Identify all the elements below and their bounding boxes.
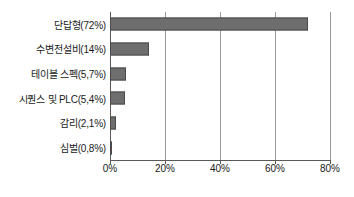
bar-row <box>110 86 330 111</box>
bar-row <box>110 37 330 62</box>
x-tick-label: 80% <box>320 163 340 174</box>
bar <box>110 141 112 154</box>
bar-row <box>110 61 330 86</box>
gridline <box>330 12 331 160</box>
category-label: 심벌(0,8%) <box>0 135 106 160</box>
bar-row <box>110 135 330 160</box>
x-tick-mark <box>220 160 221 164</box>
x-tick-mark <box>110 160 111 164</box>
category-label: 수변전설비(14%) <box>0 37 106 62</box>
bar-row <box>110 12 330 37</box>
category-label: 테이블 스펙(5,7%) <box>0 61 106 86</box>
x-tick-label: 40% <box>210 163 230 174</box>
bar-chart: 단답형(72%)수변전설비(14%)테이블 스펙(5,7%)시퀀스 및 PLC(… <box>0 0 354 197</box>
bar <box>110 18 308 31</box>
bar <box>110 116 116 129</box>
plot-area <box>110 12 330 160</box>
x-tick-mark <box>165 160 166 164</box>
bar <box>110 42 149 55</box>
bar <box>110 92 125 105</box>
x-tick-mark <box>330 160 331 164</box>
bar-row <box>110 111 330 136</box>
x-tick-label: 20% <box>155 163 175 174</box>
x-tick-mark <box>275 160 276 164</box>
bar <box>110 67 126 80</box>
x-axis-tick-labels: 0%20%40%60%80% <box>0 163 354 183</box>
category-label: 단답형(72%) <box>0 12 106 37</box>
category-label: 시퀀스 및 PLC(5,4%) <box>0 86 106 111</box>
x-tick-label: 60% <box>265 163 285 174</box>
category-label: 감리(2,1%) <box>0 111 106 136</box>
x-tick-label: 0% <box>103 163 117 174</box>
category-axis-labels: 단답형(72%)수변전설비(14%)테이블 스펙(5,7%)시퀀스 및 PLC(… <box>0 12 106 160</box>
